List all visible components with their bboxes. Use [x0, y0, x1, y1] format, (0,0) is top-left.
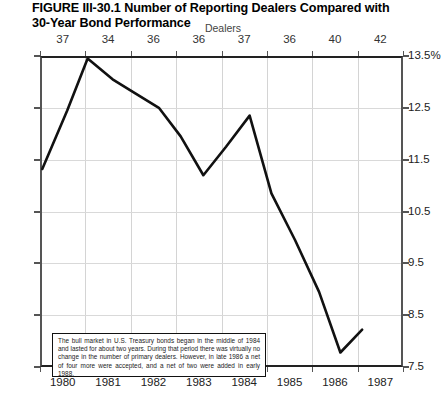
x-axis-tick	[358, 367, 359, 372]
series-polyline	[42, 59, 362, 353]
top-axis-tick-label: 34	[83, 33, 133, 45]
x-axis-tick	[403, 367, 404, 372]
title-line-1: FIGURE III-30.1 Number of Reporting Deal…	[32, 1, 442, 16]
x-axis-tick-label: 1985	[265, 376, 315, 388]
y-axis-right-tick-label: 11.5	[408, 153, 430, 165]
y-axis-right-tick-label: 10.5	[408, 205, 430, 217]
top-axis-tick-label: 36	[128, 33, 178, 45]
y-axis-right-tick-label: 7.5	[408, 360, 424, 372]
x-axis-tick	[40, 367, 41, 372]
y-axis-right-tick-label: 9.5	[408, 256, 424, 268]
y-axis-right-tick-label: 8.5	[408, 308, 424, 320]
top-axis-tick-label: 37	[38, 33, 88, 45]
x-axis-tick-label: 1987	[355, 376, 405, 388]
x-axis-tick	[312, 367, 313, 372]
annotation-text: The bull market in U.S. Treasury bonds b…	[58, 337, 260, 378]
top-axis-tick-label: 36	[265, 33, 315, 45]
top-axis-tick	[403, 51, 404, 56]
y-axis-right-tick-label: 12.5	[408, 101, 430, 113]
plot-area	[40, 56, 403, 367]
top-axis-tick-label: 40	[310, 33, 360, 45]
top-axis-tick-label: 42	[355, 33, 405, 45]
figure-container: FIGURE III-30.1 Number of Reporting Deal…	[0, 0, 446, 407]
y-axis-right-tick-label: 13.5%	[408, 49, 441, 61]
annotation-box: The bull market in U.S. Treasury bonds b…	[52, 333, 266, 377]
top-axis-tick-label: 37	[219, 33, 269, 45]
top-axis-tick-label: 36	[174, 33, 224, 45]
x-axis-tick-label: 1986	[310, 376, 360, 388]
x-axis-tick	[267, 367, 268, 372]
line-series	[40, 56, 403, 367]
